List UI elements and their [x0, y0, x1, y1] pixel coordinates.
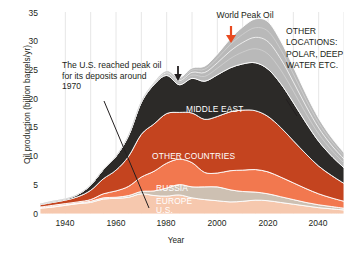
layer-label-us: U.S.: [156, 205, 173, 215]
y-axis-ticks: 0 5 10 15 20 25 30 35: [0, 0, 38, 254]
y-tick-25: 25: [10, 65, 38, 75]
y-tick-5: 5: [10, 180, 38, 190]
x-tick-2000: 2000: [197, 218, 237, 228]
annotation-us-peak-oil: The U.S. reached peak oil for its deposi…: [62, 60, 162, 92]
layer-label-other-countries: OTHER COUNTRIES: [152, 151, 235, 161]
x-tick-1960: 1960: [96, 218, 136, 228]
layer-label-russia: RUSSIA: [156, 183, 188, 193]
y-tick-35: 35: [10, 8, 38, 18]
y-tick-20: 20: [10, 94, 38, 104]
y-tick-15: 15: [10, 122, 38, 132]
x-tick-1940: 1940: [45, 218, 85, 228]
oil-production-chart: Oil production (billion barrels/yr) 0 5 …: [0, 0, 352, 254]
x-tick-2040: 2040: [298, 218, 338, 228]
x-tick-2020: 2020: [248, 218, 288, 228]
y-tick-30: 30: [10, 36, 38, 46]
annotation-other-locations: OTHER LOCATIONS: POLAR, DEEP WATER ETC.: [286, 26, 352, 72]
annotation-world-peak-oil: World Peak Oil: [192, 10, 298, 21]
layer-label-middle-east: MIDDLE EAST: [186, 104, 244, 114]
x-axis-title: Year: [0, 236, 352, 245]
y-tick-0: 0: [10, 209, 38, 219]
x-tick-1980: 1980: [146, 218, 186, 228]
y-tick-10: 10: [10, 151, 38, 161]
